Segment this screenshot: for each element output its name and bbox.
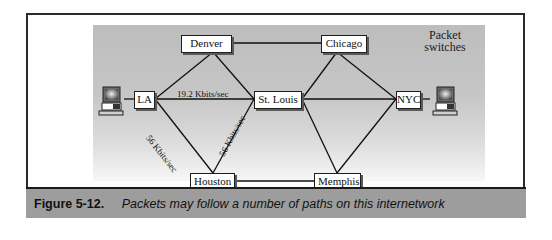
- link-memphis-nyc: [337, 99, 396, 173]
- figure-number: Figure 5-12.: [34, 197, 104, 211]
- computer-icon-left: [96, 86, 126, 118]
- node-nyc: NYC: [396, 91, 421, 109]
- node-chicago: Chicago: [321, 35, 367, 53]
- computer-icon-right: [430, 86, 460, 118]
- link-label-la-stlouis: 19.2 Kbits/sec: [177, 89, 229, 99]
- node-denver: Denver: [181, 35, 232, 53]
- node-la: LA: [134, 91, 155, 109]
- link-stlouis-chicago: [302, 52, 337, 99]
- legend-packet-switches: Packet switches: [405, 29, 485, 53]
- link-stlouis-memphis: [302, 99, 337, 173]
- caption-text: Packets may follow a number of paths on …: [122, 197, 445, 211]
- link-chicago-nyc: [337, 52, 396, 99]
- node-st-louis: St. Louis: [254, 91, 302, 109]
- legend-line-2: switches: [405, 41, 485, 53]
- figure-caption: Figure 5-12. Packets may follow a number…: [26, 187, 526, 218]
